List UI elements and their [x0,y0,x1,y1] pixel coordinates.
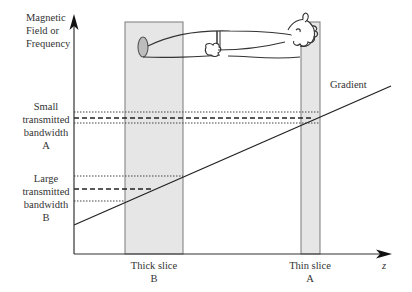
large-bandwidth-label-line-4: B [18,211,74,224]
small-bandwidth-label-line-1: Small [18,100,74,113]
x-axis-label: z [382,259,386,272]
large-bandwidth-label-line-3: bandwidth [18,198,74,211]
small-bandwidth-label-line-3: bandwidth [18,126,74,139]
small-bandwidth-label-line-2: transmitted [18,113,74,126]
y-axis-label: Magnetic Field or Frequency [26,11,70,50]
large-bandwidth-label-line-1: Large [18,172,74,185]
small-bandwidth-label: Small transmitted bandwidth A [18,100,74,152]
thin-slice-slab [301,22,320,254]
y-axis-label-line-1: Magnetic [26,11,70,24]
thin-slice-label-line-2: A [280,272,340,285]
large-bandwidth-label: Large transmitted bandwidth B [18,172,74,224]
thick-slice-label-line-2: B [124,272,184,285]
thin-slice-label-line-1: Thin slice [280,259,340,272]
y-axis-label-line-3: Frequency [26,37,70,50]
gradient-label: Gradient [330,78,367,91]
small-bandwidth-label-line-4: A [18,139,74,152]
gradient-line [74,86,391,225]
thick-slice-label-line-1: Thick slice [124,259,184,272]
thin-slice-label: Thin slice A [280,259,340,285]
large-bandwidth-label-line-2: transmitted [18,185,74,198]
thick-slice-label: Thick slice B [124,259,184,285]
mri-slice-selection-diagram: Magnetic Field or Frequency Small transm… [0,0,412,292]
y-axis-label-line-2: Field or [26,24,70,37]
